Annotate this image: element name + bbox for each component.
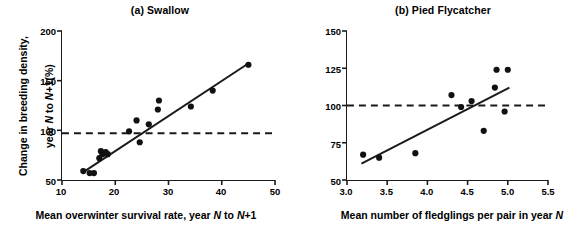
- panel-a-xtick-20: 20: [109, 186, 120, 197]
- panel-b-points: [360, 67, 511, 161]
- data-point: [492, 85, 498, 91]
- panel-b-ytick-125: 125: [325, 63, 341, 74]
- data-point: [91, 170, 97, 176]
- data-point: [493, 67, 499, 73]
- data-point: [146, 121, 152, 127]
- panel-b-xtick-45: 4.5: [461, 186, 474, 197]
- data-point: [137, 139, 143, 145]
- panel-a-x-axis-title: Mean overwinter survival rate, year N to…: [36, 209, 257, 221]
- data-point: [360, 152, 366, 158]
- panel-b-fit-line: [361, 88, 509, 164]
- panel-a-xtick-30: 30: [163, 186, 174, 197]
- panel-a-title: (a) Swallow: [0, 4, 292, 16]
- figure-container: (a) Swallow Change in breeding density, …: [0, 0, 584, 234]
- panel-a-y-ticks: [57, 31, 62, 180]
- panel-a-xtick-40: 40: [216, 186, 227, 197]
- panel-b-ytick-75: 75: [330, 138, 341, 149]
- panel-b-ytick-100: 100: [325, 101, 341, 112]
- panel-a-ytick-150: 150: [40, 76, 56, 87]
- panel-b-xtick-55: 5.5: [541, 186, 554, 197]
- panel-a-xtick-50: 50: [270, 186, 281, 197]
- data-point: [448, 92, 454, 98]
- panel-b-xtick-40: 4.0: [420, 186, 433, 197]
- panel-a-data-layer: [62, 31, 275, 180]
- y-axis-title-line1: Change in breeding density,: [17, 36, 29, 176]
- panel-b-xtick-35: 3.5: [380, 186, 393, 197]
- data-point: [505, 67, 511, 73]
- panel-b-ytick-50: 50: [330, 176, 341, 187]
- data-point: [126, 128, 132, 134]
- data-point: [80, 168, 86, 174]
- data-point: [155, 106, 161, 112]
- panel-b-x-axis-title: Mean number of fledglings per pair in ye…: [341, 209, 563, 221]
- data-point: [502, 108, 508, 114]
- panel-a-ytick-200: 200: [40, 26, 56, 37]
- data-point: [376, 155, 382, 161]
- panel-b-ytick-150: 150: [325, 26, 341, 37]
- panel-swallow: (a) Swallow Change in breeding density, …: [0, 0, 292, 234]
- data-point: [210, 88, 216, 94]
- panel-a-ytick-100: 100: [40, 126, 56, 137]
- data-point: [458, 104, 464, 110]
- data-point: [412, 150, 418, 156]
- data-point: [481, 128, 487, 134]
- panel-b-xtick-50: 5.0: [501, 186, 514, 197]
- panel-a-y-axis-title: Change in breeding density, year N to N+…: [4, 24, 57, 188]
- data-point: [156, 97, 162, 103]
- panel-a-ytick-50: 50: [45, 176, 56, 187]
- data-point: [133, 117, 139, 123]
- data-point: [188, 103, 194, 109]
- panel-a-x-ticks: [62, 180, 275, 185]
- panel-b-xtick-30: 3.0: [339, 186, 352, 197]
- data-point: [468, 98, 474, 104]
- panel-b-plot-area: [346, 31, 548, 181]
- panel-b-data-layer: [347, 31, 548, 180]
- panel-a-plot-area: [61, 31, 275, 181]
- data-point: [105, 151, 111, 157]
- data-point: [245, 62, 251, 68]
- panel-a-xtick-10: 10: [56, 186, 67, 197]
- panel-b-title: (b) Pied Flycatcher: [292, 4, 584, 16]
